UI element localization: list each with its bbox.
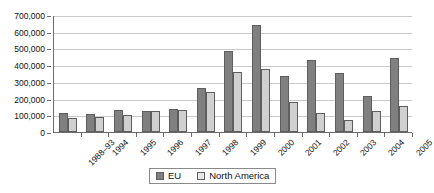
y-axis-tick-label: 100,000 [14, 112, 45, 120]
bar-eu [169, 109, 178, 132]
bar-group [54, 16, 82, 132]
y-axis-tick-mark [47, 66, 51, 67]
bar-north-america [123, 115, 132, 132]
bar-north-america [372, 111, 381, 132]
x-axis-tick-label: 1999 [249, 138, 269, 158]
legend-label-eu: EU [168, 170, 181, 181]
bar-north-america [233, 72, 242, 132]
bar-eu [390, 58, 399, 132]
y-axis-tick-mark [47, 116, 51, 117]
bar-eu [197, 88, 206, 132]
bar-group [220, 16, 248, 132]
bar-north-america [68, 118, 77, 132]
bar-eu [363, 96, 372, 132]
x-axis-tick-label: 2004 [387, 138, 407, 158]
bar-group [303, 16, 331, 132]
y-axis-tick-label: 400,000 [14, 62, 45, 70]
bar-group [192, 16, 220, 132]
bar-group [137, 16, 165, 132]
bar-north-america [151, 111, 160, 132]
x-axis-tick-label: 2005 [414, 138, 434, 158]
y-axis-tick-label: 600,000 [14, 29, 45, 37]
bar-north-america [289, 102, 298, 132]
bar-eu [280, 76, 289, 132]
bar-eu [335, 73, 344, 132]
x-axis-tick-label: 1997 [193, 138, 213, 158]
bar-eu [142, 111, 151, 132]
bar-eu [86, 114, 95, 132]
x-axis-tick-label: 2000 [276, 138, 296, 158]
bar-eu [59, 113, 68, 132]
y-axis-tick-mark [47, 33, 51, 34]
bar-eu [252, 25, 261, 132]
plot-area [53, 16, 412, 133]
bar-north-america [399, 106, 408, 132]
bar-group [109, 16, 137, 132]
bar-group [275, 16, 303, 132]
y-axis-tick-label: 500,000 [14, 45, 45, 53]
bars-layer [54, 16, 412, 132]
bar-eu [114, 110, 123, 132]
y-axis-tick-mark [47, 49, 51, 50]
legend-label-north-america: North America [209, 170, 269, 181]
x-axis-tick-label: 2003 [359, 138, 379, 158]
bar-north-america [206, 92, 215, 132]
x-axis-tick-label: 1998 [221, 138, 241, 158]
bar-north-america [316, 113, 325, 132]
bar-north-america [95, 117, 104, 132]
bar-eu [307, 60, 316, 132]
bar-eu [224, 51, 233, 132]
y-axis-tick-label: 300,000 [14, 79, 45, 87]
bar-group [385, 16, 413, 132]
legend-swatch-icon-eu [156, 172, 164, 180]
bar-group [358, 16, 386, 132]
legend-item-eu: EU [156, 170, 181, 181]
legend: EU North America [149, 168, 276, 184]
y-axis-tick-label: 700,000 [14, 12, 45, 20]
y-axis-tick-label: 200,000 [14, 96, 45, 104]
bar-group [82, 16, 110, 132]
bar-north-america [344, 120, 353, 132]
y-axis-tick-mark [47, 83, 51, 84]
bar-north-america [178, 110, 187, 132]
bar-group [247, 16, 275, 132]
legend-swatch-icon-north-america [197, 172, 205, 180]
bar-group [164, 16, 192, 132]
x-axis-tick-label: 1996 [166, 138, 186, 158]
y-axis-tick-mark [47, 100, 51, 101]
y-axis: 700,000600,000500,000400,000300,000200,0… [0, 0, 51, 145]
x-axis-tick-label: 1995 [138, 138, 158, 158]
bar-north-america [261, 69, 270, 132]
y-axis-tick-mark [47, 16, 51, 17]
bar-group [330, 16, 358, 132]
x-axis-tick-label: 2001 [304, 138, 324, 158]
legend-item-north-america: North America [197, 170, 269, 181]
x-axis-tick-label: 2002 [331, 138, 351, 158]
